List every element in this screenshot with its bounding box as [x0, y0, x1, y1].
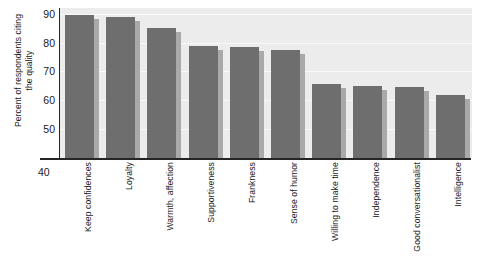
bar [271, 50, 305, 158]
bar-shadow [341, 88, 346, 158]
bar-shadow [259, 51, 264, 158]
bar-shadow [424, 91, 429, 158]
bar-shadow [300, 54, 305, 158]
bar [106, 17, 140, 158]
bar [395, 87, 429, 158]
x-axis-tick-label: Frankness [247, 162, 257, 203]
bar [436, 95, 470, 158]
bar-body [230, 47, 259, 158]
bar-body [147, 28, 176, 158]
x-axis-tick-label: Keep confidences [83, 162, 93, 232]
bar-shadow [94, 19, 99, 158]
x-axis-tick-label: Intelligence [453, 162, 463, 207]
bar-body [436, 95, 465, 158]
bar [230, 47, 264, 158]
y-axis-tick-label: 90 [33, 8, 55, 20]
bar-body [312, 84, 341, 158]
x-axis-tick-label: Good conversationalist [412, 162, 422, 252]
plot-area [59, 8, 472, 158]
bar [147, 28, 181, 158]
bar-body [189, 46, 218, 159]
y-axis-tick-label: 60 [33, 94, 55, 106]
y-axis-tick-label: 80 [33, 37, 55, 49]
bar [65, 15, 99, 158]
bar-body [395, 87, 424, 158]
bar-shadow [135, 21, 140, 158]
bar [189, 46, 223, 159]
bar [353, 86, 387, 158]
y-axis-tick-label: 50 [33, 123, 55, 135]
x-axis-tick-labels: Keep confidencesLoyaltyWarmth, affection… [0, 162, 479, 269]
x-axis-tick-label: Loyalty [124, 162, 134, 190]
x-axis-tick-label: Supportiveness [206, 162, 216, 223]
x-axis-line [40, 158, 471, 160]
bar-shadow [465, 99, 470, 158]
x-axis-tick-label: Willing to make time [330, 162, 340, 241]
bar-chart-figure: Percent of respondents citing the qualit… [0, 0, 479, 269]
bar-body [271, 50, 300, 158]
y-axis-title-line-2: the quality [23, 51, 33, 91]
y-axis-tick-labels: 5060708090 [33, 8, 55, 158]
y-axis-tick-label: 70 [33, 65, 55, 77]
bar-shadow [176, 32, 181, 158]
bar-body [65, 15, 94, 158]
x-axis-tick-label: Warmth, affection [165, 162, 175, 231]
bar-shadow [382, 90, 387, 158]
x-axis-tick-label: Independence [371, 162, 381, 218]
bar-shadow [218, 50, 223, 159]
bar-body [106, 17, 135, 158]
x-axis-tick-label: Sense of humor [289, 162, 299, 224]
bar-body [353, 86, 382, 158]
y-axis-title-line-1: Percent of respondents citing [13, 14, 23, 127]
y-axis-title: Percent of respondents citing the qualit… [13, 1, 34, 141]
bar [312, 84, 346, 158]
bar-series [60, 8, 472, 158]
